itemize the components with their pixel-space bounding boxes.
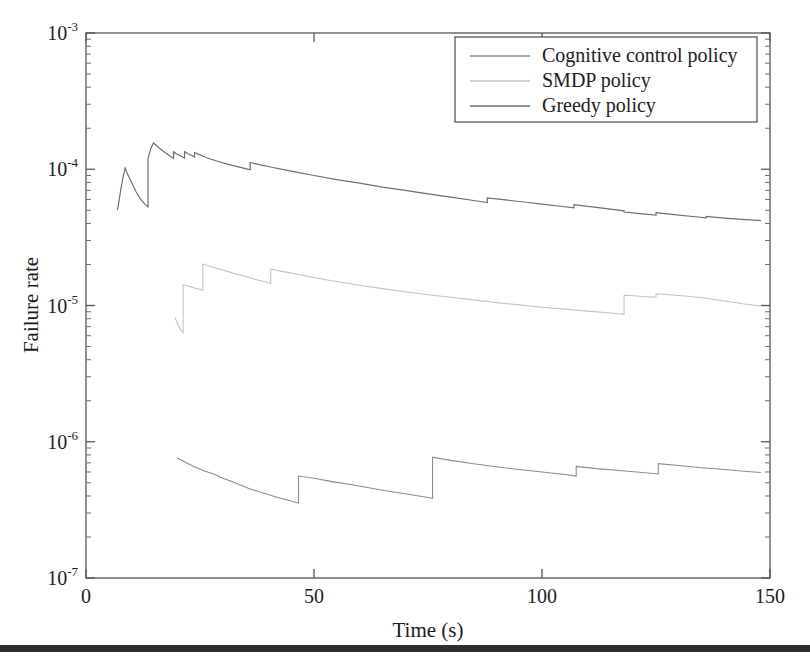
x-tick-label: 50 (304, 585, 324, 607)
x-axis-title: Time (s) (393, 618, 464, 642)
y-axis-title: Failure rate (19, 257, 43, 353)
x-tick-label: 100 (527, 585, 557, 607)
x-tick-label: 0 (81, 585, 91, 607)
legend-label-1: SMDP policy (542, 69, 651, 92)
scan-artifact-bar (0, 645, 810, 652)
legend-label-2: Greedy policy (542, 94, 656, 117)
legend: Cognitive control policySMDP policyGreed… (455, 37, 757, 122)
legend-label-0: Cognitive control policy (542, 44, 738, 67)
x-tick-label: 150 (755, 585, 785, 607)
failure-rate-chart: 10-710-610-510-410-3 050100150 Failure r… (0, 0, 810, 665)
